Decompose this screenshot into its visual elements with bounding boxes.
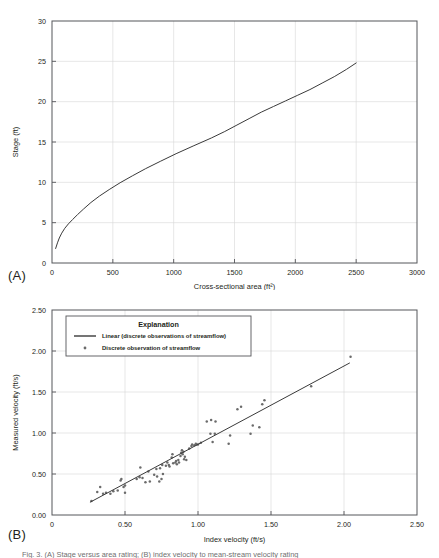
- scatter-point: [177, 459, 180, 462]
- scatter-point: [214, 420, 217, 423]
- panel-b-label: (B): [8, 527, 26, 542]
- stage-area-curve: [56, 63, 357, 249]
- scatter-point: [206, 420, 209, 423]
- panel-a-label: (A): [8, 268, 26, 283]
- x-tick-label: 1.50: [264, 520, 278, 529]
- scatter-point: [261, 403, 264, 406]
- scatter-point: [99, 486, 102, 489]
- scatter-point: [229, 434, 232, 437]
- y-axis-title-b: Measured velocity (ft/s): [11, 374, 20, 450]
- plot-area-a: 050010001500200025003000051015202530Cros…: [11, 17, 425, 290]
- x-tick-label: 2.00: [337, 520, 351, 529]
- scatter-point: [184, 456, 187, 459]
- scatter-point: [171, 453, 174, 456]
- scatter-point: [209, 433, 212, 436]
- scatter-point: [263, 399, 266, 402]
- x-tick-label: 2.50: [410, 520, 424, 529]
- scatter-point: [176, 463, 179, 466]
- scatter-point: [149, 480, 152, 483]
- scatter-point: [124, 492, 127, 495]
- scatter-point: [139, 466, 142, 469]
- y-tick-label: 15: [38, 138, 46, 147]
- scatter-point: [159, 467, 162, 470]
- scatter-point: [240, 406, 243, 409]
- x-tick-label: 500: [107, 268, 119, 277]
- scatter-point: [160, 478, 163, 481]
- x-tick-label: 0.50: [118, 520, 132, 529]
- scatter-point: [210, 419, 213, 422]
- regression-line: [90, 363, 350, 502]
- y-tick-label: 5: [42, 218, 46, 227]
- legend-title: Explanation: [138, 320, 179, 329]
- scatter-point: [249, 433, 252, 436]
- scatter-point: [191, 443, 194, 446]
- y-tick-label: 30: [38, 17, 46, 26]
- scatter-point: [258, 426, 261, 429]
- scatter-point: [124, 484, 127, 487]
- scatter-point: [310, 385, 313, 388]
- scatter-point: [96, 491, 99, 494]
- scatter-point: [144, 481, 147, 484]
- scatter-point: [175, 460, 178, 463]
- scatter-point: [156, 475, 159, 478]
- scatter-points-group: [90, 355, 352, 502]
- x-axis-title-b: Index velocity (ft/s): [204, 535, 266, 544]
- x-tick-label: 2500: [348, 268, 364, 277]
- scatter-point: [183, 458, 186, 461]
- scatter-point: [349, 355, 352, 358]
- scatter-point: [109, 492, 112, 495]
- y-tick-label: 2.00: [32, 347, 46, 356]
- y-axis-title-a: Stage (ft): [11, 127, 20, 157]
- y-tick-label: 0.50: [32, 470, 46, 479]
- scatter-point: [168, 465, 171, 468]
- scatter-point: [153, 474, 156, 477]
- index-velocity-chart: 00.501.001.502.002.500.000.501.001.502.0…: [0, 290, 439, 558]
- y-tick-label: 1.50: [32, 388, 46, 397]
- legend-explanation: ExplanationLinear (discrete observations…: [66, 316, 251, 356]
- legend-entry-label: Discrete observation of streamflow: [102, 345, 201, 351]
- scatter-point: [162, 473, 165, 476]
- y-tick-label: 0.00: [32, 511, 46, 520]
- scatter-point: [185, 459, 188, 462]
- x-tick-label: 2000: [287, 268, 303, 277]
- scatter-point: [172, 462, 175, 465]
- scatter-point: [116, 489, 119, 492]
- y-tick-label: 0: [42, 259, 46, 268]
- scatter-point: [155, 468, 158, 471]
- scatter-point: [158, 480, 161, 483]
- y-tick-label: 25: [38, 57, 46, 66]
- scatter-point: [211, 441, 214, 444]
- scatter-point: [179, 455, 182, 458]
- legend-entry-label: Linear (discrete observations of streamf…: [102, 333, 226, 339]
- panel-b-container: 00.501.001.502.002.500.000.501.001.502.0…: [0, 290, 439, 558]
- y-tick-label: 20: [38, 97, 46, 106]
- scatter-point: [165, 465, 168, 468]
- x-tick-label: 0: [50, 268, 54, 277]
- x-tick-label: 1.00: [191, 520, 205, 529]
- legend-point-swatch: [84, 347, 87, 350]
- y-tick-label: 1.00: [32, 429, 46, 438]
- x-axis-title-a: Cross-sectional area (ft²): [194, 282, 275, 290]
- figure-caption: Fig. 3. (A) Stage versus area rating; (B…: [22, 550, 432, 558]
- panel-a-container: 050010001500200025003000051015202530Cros…: [0, 0, 439, 290]
- stage-area-chart: 050010001500200025003000051015202530Cros…: [0, 0, 439, 290]
- scatter-point: [236, 408, 239, 411]
- x-tick-label: 1000: [166, 268, 182, 277]
- scatter-point: [178, 461, 181, 464]
- y-tick-label: 2.50: [32, 306, 46, 315]
- scatter-point: [227, 442, 230, 445]
- x-tick-label: 0: [50, 520, 54, 529]
- x-tick-label: 3000: [409, 268, 425, 277]
- scatter-point: [120, 478, 123, 481]
- scatter-point: [252, 424, 255, 427]
- scatter-point: [141, 477, 144, 480]
- x-tick-label: 1500: [227, 268, 243, 277]
- y-tick-label: 10: [38, 178, 46, 187]
- plot-area-b: 00.501.001.502.002.500.000.501.001.502.0…: [11, 306, 424, 544]
